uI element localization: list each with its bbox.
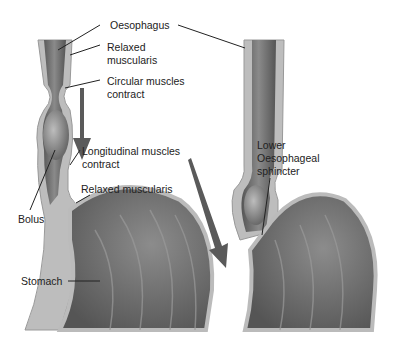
label-relaxed-muscularis-bottom: Relaxed muscularis [81, 183, 173, 195]
peristalsis-illustration [0, 0, 395, 349]
label-stomach: Stomach [21, 275, 62, 287]
label-longitudinal-2: contract [82, 158, 119, 170]
bolus-shape [43, 110, 69, 160]
label-les-2: Oesophageal [257, 152, 319, 164]
label-relaxed-muscularis-top-1: Relaxed [107, 41, 146, 53]
label-longitudinal-1: Longitudinal muscles [82, 145, 180, 157]
label-bolus: Bolus [18, 213, 44, 225]
label-relaxed-muscularis-top-2: muscularis [107, 54, 157, 66]
left-stomach [60, 187, 212, 330]
label-les-3: sphincter [257, 165, 300, 177]
label-les-1: Lower [257, 139, 286, 151]
label-circular-2: contract [107, 88, 144, 100]
label-circular-1: Circular muscles [107, 75, 185, 87]
label-oesophagus: Oesophagus [110, 19, 170, 31]
